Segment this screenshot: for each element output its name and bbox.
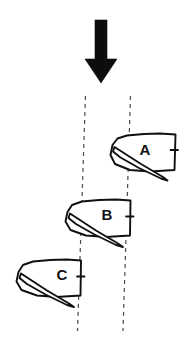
diagram-canvas: ABC (0, 0, 183, 351)
boat-c-label: C (57, 266, 68, 283)
boat-b: B (66, 200, 134, 248)
boat-b-label: B (102, 206, 113, 223)
wind-direction-arrow (85, 20, 117, 83)
sailing-diagram: ABC (0, 0, 183, 351)
boat-a-label: A (140, 141, 151, 158)
boat-a: A (111, 134, 179, 181)
wind-arrow-shape (85, 20, 117, 83)
boat-c: C (17, 260, 85, 308)
boat-group: ABC (17, 134, 179, 308)
